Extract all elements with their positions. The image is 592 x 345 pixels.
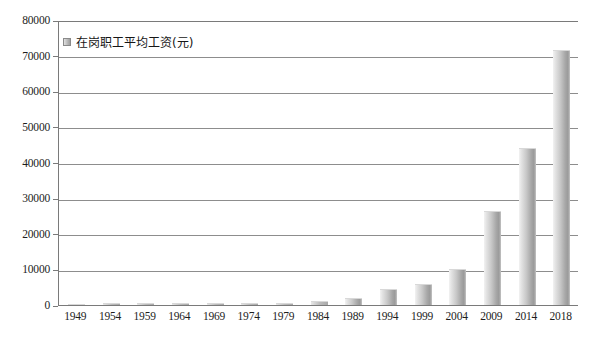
- bar: [137, 303, 154, 305]
- bar: [241, 303, 258, 305]
- gridline: [59, 164, 578, 165]
- bar-chart: 0100002000030000400005000060000700008000…: [0, 0, 592, 345]
- y-axis-tick-label: 60000: [0, 86, 50, 98]
- bar: [484, 211, 501, 305]
- bar: [415, 284, 432, 305]
- gridline: [59, 200, 578, 201]
- plot-area: [58, 21, 578, 306]
- gridline: [59, 128, 578, 129]
- y-axis-tick-label: 70000: [0, 51, 50, 63]
- y-axis-tick-label: 80000: [0, 15, 50, 27]
- legend-label: 在岗职工平均工资(元): [76, 33, 193, 50]
- gridline: [59, 93, 578, 94]
- bar: [172, 303, 189, 305]
- x-axis-tick-label: 2018: [538, 311, 584, 323]
- bar: [68, 304, 85, 306]
- bar: [380, 289, 397, 305]
- bar: [276, 303, 293, 305]
- bar: [345, 298, 362, 305]
- chart-legend: 在岗职工平均工资(元): [59, 30, 200, 53]
- y-axis-tick-label: 50000: [0, 122, 50, 134]
- bar: [553, 50, 570, 305]
- bar: [311, 301, 328, 305]
- bar: [519, 148, 536, 305]
- bar: [103, 303, 120, 305]
- y-axis-tick-label: 30000: [0, 193, 50, 205]
- bar: [449, 269, 466, 305]
- y-axis-tick-label: 40000: [0, 158, 50, 170]
- y-axis-tick-label: 20000: [0, 229, 50, 241]
- gridline: [59, 57, 578, 58]
- legend-swatch-icon: [63, 38, 71, 46]
- y-axis-tick-label: 10000: [0, 264, 50, 276]
- y-axis-tick-label: 0: [0, 300, 50, 312]
- bar: [207, 303, 224, 305]
